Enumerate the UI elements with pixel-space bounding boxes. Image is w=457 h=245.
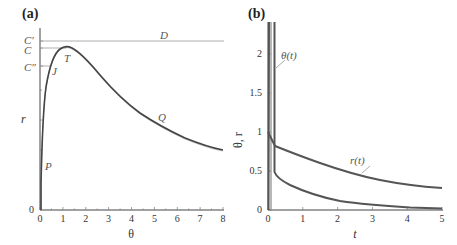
level-c: C	[24, 44, 32, 56]
point-j-label: J	[52, 65, 58, 77]
svg-text:0: 0	[38, 213, 43, 224]
svg-text:0.5: 0.5	[250, 165, 263, 176]
svg-text:2: 2	[257, 48, 262, 59]
svg-text:8: 8	[221, 213, 226, 224]
r-t-leader	[362, 166, 370, 173]
r-t-label: r(t)	[350, 154, 365, 167]
svg-text:2: 2	[83, 213, 88, 224]
svg-text:4: 4	[129, 213, 134, 224]
trajectory-curve-outer	[41, 48, 223, 210]
svg-text:5: 5	[440, 213, 445, 224]
svg-text:6: 6	[175, 213, 180, 224]
theta-t-label: θ(t)	[281, 49, 297, 62]
svg-text:1: 1	[300, 213, 305, 224]
panel-b-y-tick-labels: 0 0.5 1 1.5 2	[250, 48, 263, 215]
panel-b: (b) 0 0.5 1 1.5 2 θ, r	[231, 6, 445, 241]
svg-text:0: 0	[257, 204, 262, 215]
panel-a-x-tick-labels: 0 1 2 3 4 5 6 7 8	[38, 213, 226, 224]
trajectory-curve	[41, 47, 223, 210]
panel-b-x-tick-labels: 0 1 2 3 4 5	[266, 213, 445, 224]
panel-a-y-zero: 0	[29, 204, 34, 215]
point-q-label: Q	[158, 111, 166, 123]
svg-text:1.5: 1.5	[250, 87, 263, 98]
svg-text:0: 0	[266, 213, 271, 224]
level-c-double-prime: C″	[24, 61, 36, 73]
point-p-label: P	[44, 160, 52, 172]
point-t-label: T	[64, 52, 71, 64]
svg-text:7: 7	[198, 213, 203, 224]
panel-a-x-label: θ	[128, 227, 134, 241]
svg-text:1: 1	[257, 126, 262, 137]
svg-text:3: 3	[106, 213, 111, 224]
figure: (a) 0 1 2 3 4	[0, 0, 457, 245]
panel-b-label: (b)	[248, 6, 265, 22]
svg-text:4: 4	[405, 213, 410, 224]
panel-b-x-label: t	[353, 227, 357, 241]
panel-a: (a) 0 1 2 3 4	[21, 6, 226, 241]
point-d-label: D	[159, 29, 168, 41]
panel-a-label: (a)	[22, 6, 39, 22]
panel-b-y-label: θ, r	[231, 132, 245, 148]
svg-text:2: 2	[335, 213, 340, 224]
svg-text:5: 5	[152, 213, 157, 224]
panel-a-y-label: r	[21, 112, 26, 126]
theta-t-leader	[276, 60, 285, 68]
svg-text:3: 3	[370, 213, 375, 224]
svg-text:1: 1	[60, 213, 65, 224]
